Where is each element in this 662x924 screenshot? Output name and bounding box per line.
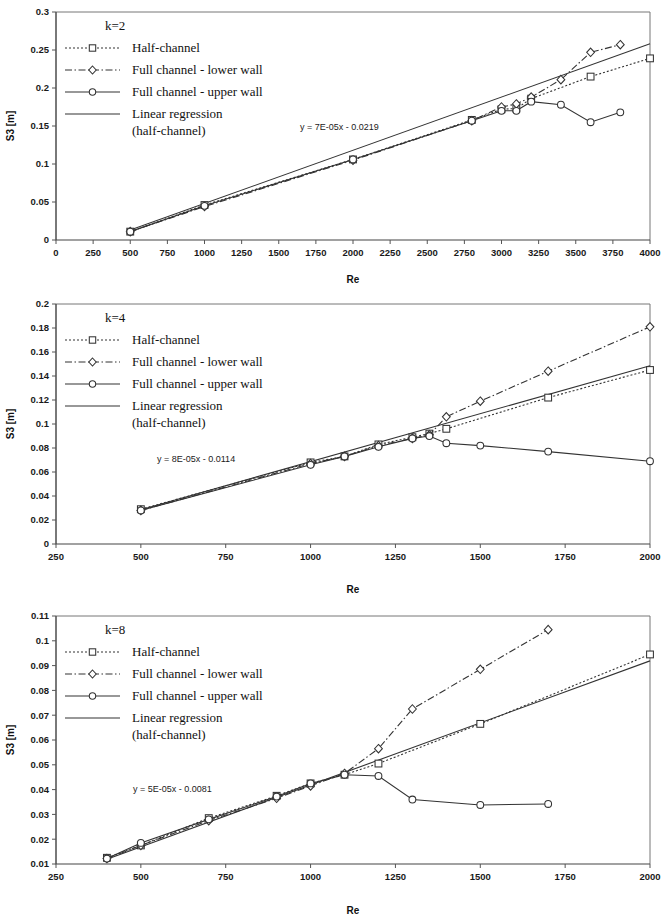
- x-tick-label: 0: [53, 247, 58, 258]
- x-tick-label: 3500: [565, 247, 586, 258]
- y-tick-label: 0.1: [36, 418, 50, 429]
- legend-label: Full channel - upper wall: [132, 84, 263, 99]
- data-point-circle: [545, 801, 552, 808]
- y-tick-label: 0.05: [31, 759, 50, 770]
- x-tick-label: 3250: [528, 247, 549, 258]
- data-point-circle: [137, 840, 144, 847]
- y-axis-title: S3 [m]: [5, 111, 16, 142]
- data-point-circle: [205, 816, 212, 823]
- y-tick-label: 0: [44, 538, 49, 549]
- data-point-circle: [477, 802, 484, 809]
- y-tick-label: 0.2: [36, 298, 49, 309]
- y-axis-title: S3 [m]: [5, 409, 16, 440]
- legend-label: Half-channel: [132, 40, 200, 55]
- y-tick-label: 0.25: [31, 44, 50, 55]
- y-tick-label: 0.02: [31, 834, 50, 845]
- legend-label: Full channel - lower wall: [132, 62, 263, 77]
- y-tick-label: 0.04: [31, 490, 50, 501]
- x-axis-title: Re: [347, 905, 360, 916]
- data-point-circle: [273, 793, 280, 800]
- data-point-circle: [104, 855, 111, 862]
- data-point-circle: [375, 443, 382, 450]
- x-tick-label: 1250: [385, 551, 406, 562]
- y-tick-label: 0.03: [31, 809, 50, 820]
- data-point-circle: [443, 440, 450, 447]
- data-point-square: [545, 394, 552, 401]
- x-tick-label: 750: [218, 551, 234, 562]
- x-tick-label: 250: [85, 247, 101, 258]
- legend-label: Full channel - upper wall: [132, 688, 263, 703]
- regression-equation-label: y = 7E-05x - 0.0219: [300, 122, 379, 132]
- figure-page: 00.050.10.150.20.250.3025050075010001250…: [0, 0, 662, 924]
- x-tick-label: 2750: [454, 247, 475, 258]
- data-point-circle: [137, 507, 144, 514]
- x-tick-label: 2250: [380, 247, 401, 258]
- x-tick-label: 500: [133, 871, 149, 882]
- chart-panel-k8: 0.010.020.030.040.050.060.070.080.090.10…: [0, 602, 662, 924]
- data-point-circle: [587, 119, 594, 126]
- data-point-circle: [528, 98, 535, 105]
- y-tick-label: 0.06: [31, 734, 50, 745]
- legend-marker-diamond: [89, 670, 96, 678]
- x-tick-label: 1000: [300, 871, 321, 882]
- data-point-diamond: [616, 40, 624, 49]
- y-tick-label: 0.12: [31, 394, 50, 405]
- x-tick-label: 750: [159, 247, 175, 258]
- x-tick-label: 2000: [342, 247, 363, 258]
- data-point-circle: [307, 461, 314, 468]
- legend-marker-diamond: [89, 358, 96, 366]
- x-tick-label: 1000: [194, 247, 215, 258]
- chart-panel-k4: 00.020.040.060.080.10.120.140.160.180.22…: [0, 290, 662, 602]
- legend-label-secondary: (half-channel): [132, 727, 206, 742]
- chart-k8-svg: 0.010.020.030.040.050.060.070.080.090.10…: [0, 602, 662, 924]
- legend-label: Linear regression: [132, 710, 223, 725]
- y-tick-label: 0.06: [31, 466, 50, 477]
- data-point-circle: [545, 448, 552, 455]
- y-tick-label: 0.2: [36, 82, 49, 93]
- x-tick-label: 1500: [268, 247, 289, 258]
- data-point-circle: [647, 458, 654, 465]
- chart-k4-svg: 00.020.040.060.080.10.120.140.160.180.22…: [0, 290, 662, 602]
- panel-title-label: k=2: [105, 18, 125, 33]
- panel-title-label: k=8: [105, 622, 125, 637]
- legend-label: Full channel - lower wall: [132, 666, 263, 681]
- data-point-circle: [307, 780, 314, 787]
- data-point-circle: [558, 101, 565, 108]
- data-point-circle: [409, 796, 416, 803]
- y-tick-label: 0.16: [31, 346, 50, 357]
- x-tick-label: 250: [48, 871, 64, 882]
- x-tick-label: 1750: [555, 551, 576, 562]
- data-point-circle: [468, 117, 475, 124]
- y-tick-label: 0.1: [36, 158, 50, 169]
- regression-equation-label: y = 8E-05x - 0.0114: [157, 454, 235, 464]
- x-tick-label: 500: [122, 247, 138, 258]
- legend-marker-circle: [89, 89, 95, 95]
- data-point-diamond: [646, 323, 654, 332]
- data-point-circle: [617, 109, 624, 116]
- x-tick-label: 4000: [639, 247, 660, 258]
- x-tick-label: 1750: [305, 247, 326, 258]
- data-point-diamond: [544, 367, 552, 376]
- data-point-square: [587, 73, 594, 80]
- data-point-square: [647, 367, 654, 374]
- y-tick-label: 0.08: [31, 685, 50, 696]
- data-point-circle: [341, 771, 348, 778]
- x-tick-label: 2000: [639, 551, 660, 562]
- legend-label: Half-channel: [132, 332, 200, 347]
- legend-marker-circle: [89, 693, 95, 699]
- x-axis-title: Re: [347, 274, 360, 285]
- x-tick-label: 250: [48, 551, 64, 562]
- y-tick-label: 0.18: [31, 322, 50, 333]
- legend-marker-circle: [89, 381, 95, 387]
- data-point-square: [647, 55, 654, 62]
- data-point-square: [477, 720, 484, 727]
- y-tick-label: 0.05: [31, 196, 50, 207]
- legend-label: Linear regression: [132, 106, 223, 121]
- y-tick-label: 0.14: [31, 370, 50, 381]
- data-point-circle: [513, 107, 520, 114]
- legend-marker-square: [89, 45, 95, 51]
- data-point-diamond: [476, 397, 484, 406]
- x-tick-label: 1750: [555, 871, 576, 882]
- data-point-circle: [127, 228, 134, 235]
- series-line-circle: [141, 436, 650, 510]
